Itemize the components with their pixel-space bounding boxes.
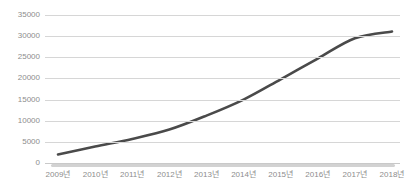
plot-area: 050001000015000200002500030000350002009년… xyxy=(45,15,400,163)
x-axis-tick-label: 2014년 xyxy=(231,170,256,179)
y-axis-tick-label: 10000 xyxy=(0,117,40,125)
gridline xyxy=(45,142,400,143)
x-axis-tick-label: 2009년 xyxy=(46,170,71,179)
x-axis-tick-label: 2011년 xyxy=(120,170,144,179)
gridline xyxy=(45,15,400,16)
x-axis-tick-label: 2012년 xyxy=(157,170,182,179)
x-axis-tick-label: 2013년 xyxy=(194,170,219,179)
x-axis-tick-label: 2010년 xyxy=(83,170,108,179)
gridline xyxy=(45,78,400,79)
y-axis-tick-label: 20000 xyxy=(0,74,40,82)
y-axis-tick-label: 25000 xyxy=(0,53,40,61)
y-axis-tick-label: 30000 xyxy=(0,32,40,40)
x-axis-tick-label: 2016년 xyxy=(305,170,330,179)
x-axis-tick-label: 2018년 xyxy=(380,170,405,179)
x-axis-band xyxy=(51,164,395,167)
gridline xyxy=(45,100,400,101)
gridline xyxy=(45,36,400,37)
y-axis-tick-label: 15000 xyxy=(0,96,40,104)
line-chart: 050001000015000200002500030000350002009년… xyxy=(0,0,405,191)
x-axis-tick-label: 2015년 xyxy=(268,170,293,179)
series-line-path xyxy=(45,15,400,163)
data-series-line xyxy=(58,31,392,154)
y-axis-tick-label: 0 xyxy=(0,159,40,167)
x-axis-tick-label: 2017년 xyxy=(342,170,367,179)
gridline xyxy=(45,121,400,122)
y-axis-tick-label: 35000 xyxy=(0,11,40,19)
y-axis-tick-label: 5000 xyxy=(0,138,40,146)
gridline xyxy=(45,57,400,58)
